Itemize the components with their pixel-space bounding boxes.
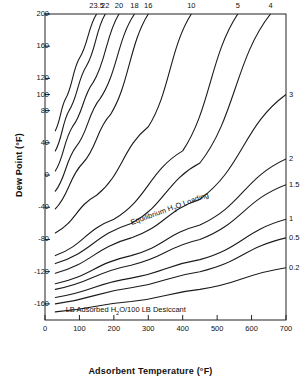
y-tick-0: 0 (9, 171, 49, 179)
x-tick-700: 700 (271, 324, 301, 333)
x-axis-title: Adsorbent Temperature (°F) (0, 366, 301, 376)
y-tick-neg160: -160 (9, 300, 49, 308)
y-tick-120: 120 (9, 74, 49, 82)
x-tick-500: 500 (202, 324, 232, 333)
curve-label-3: 3 (289, 91, 293, 99)
y-tick-80: 80 (9, 107, 49, 115)
x-tick-100: 100 (64, 324, 94, 333)
x-tick-0: 0 (30, 324, 60, 333)
x-tick-300: 300 (133, 324, 163, 333)
curve-label-0p2: 0.2 (289, 264, 299, 272)
y-tick-160: 160 (9, 42, 49, 50)
y-tick-200: 200 (9, 10, 49, 18)
x-tick-600: 600 (237, 324, 267, 333)
curve-label-5: 5 (236, 2, 240, 10)
curve-label-10: 10 (187, 2, 195, 10)
y-tick-neg120: -120 (9, 268, 49, 276)
curve-label-16: 16 (144, 2, 152, 10)
curve-label-0p5: 0.5 (289, 234, 299, 242)
curve-label-2: 2 (289, 155, 293, 163)
curve-label-1: 1 (289, 215, 293, 223)
curve-label-22: 22 (101, 2, 109, 10)
x-tick-400: 400 (168, 324, 198, 333)
annotation-loading-units: LB Adsorbed H2O/100 LB Desiccant (66, 305, 186, 316)
y-tick-40: 40 (9, 139, 49, 147)
x-tick-200: 200 (99, 324, 129, 333)
curve-label-4: 4 (268, 2, 272, 10)
y-tick-neg40: -40 (9, 203, 49, 211)
curve-label-18: 18 (130, 2, 138, 10)
y-tick-100: 100 (9, 91, 49, 99)
y-tick-neg80: -80 (9, 235, 49, 243)
curve-label-20: 20 (115, 2, 123, 10)
chart-figure: Dew Point (°F) Adsorbent Temperature (°F… (0, 0, 301, 384)
curve-label-1p5: 1.5 (289, 181, 299, 189)
